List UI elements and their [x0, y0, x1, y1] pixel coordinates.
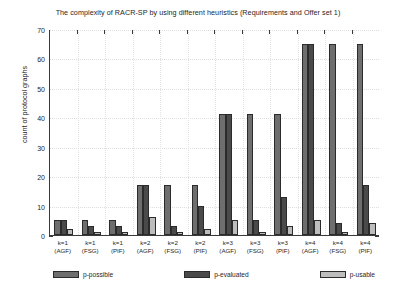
x-label-heuristic: (FSG): [159, 247, 187, 255]
y-tick-label: 70: [15, 27, 45, 34]
x-tick-label: k=3(PIF): [269, 239, 297, 255]
bar-p-evaluated: [308, 44, 314, 235]
y-tick-label: 0: [15, 233, 45, 240]
legend-swatch-p-evaluated: [184, 271, 210, 278]
legend-item-p-possible: p-possible: [53, 271, 113, 278]
x-tick-mark: [159, 30, 160, 34]
x-tick-label: k=4(FSG): [324, 239, 352, 255]
x-tick-mark: [187, 30, 188, 34]
x-tick-mark: [352, 30, 353, 34]
bar-p-usable: [177, 232, 183, 235]
gridline-vertical: [188, 30, 189, 235]
y-tick-label: 40: [15, 115, 45, 122]
x-tick-label: k=1(PIF): [104, 239, 132, 255]
chart-figure: The complexity of RACR-SP by using diffe…: [0, 0, 396, 289]
bar-p-usable: [259, 232, 265, 235]
bar-group: [274, 29, 293, 235]
x-tick-label: k=1(FSG): [77, 239, 105, 255]
y-tick-label: 50: [15, 85, 45, 92]
x-axis-labels: k=1(AGF)k=1(FSG)k=1(PIF)k=2(AGF)k=2(FSG)…: [49, 239, 379, 263]
y-tick-label: 10: [15, 203, 45, 210]
legend-label-p-usable: p-usable: [350, 271, 375, 278]
plot-area: [49, 30, 379, 236]
bar-group: [247, 29, 266, 235]
gridline-vertical: [160, 30, 161, 235]
x-tick-label: k=3(FSG): [242, 239, 270, 255]
x-tick-mark: [104, 30, 105, 34]
x-tick-label: k=2(PIF): [187, 239, 215, 255]
x-tick-mark: [324, 30, 325, 34]
gridline-vertical: [105, 30, 106, 235]
bar-p-usable: [67, 229, 73, 235]
x-tick-label: k=1(AGF): [49, 239, 77, 255]
x-tick-label: k=2(AGF): [132, 239, 160, 255]
bar-p-usable: [204, 229, 210, 235]
gridline-vertical: [325, 30, 326, 235]
y-axis-label: count of protocol graphs: [20, 25, 29, 185]
chart-legend: p-possible p-evaluated p-usable: [49, 266, 379, 282]
x-label-heuristic: (AGF): [214, 247, 242, 255]
bar-group: [82, 29, 101, 235]
bar-p-usable: [94, 232, 100, 235]
y-tick-mark: [49, 236, 53, 237]
x-label-k: k=4: [324, 239, 352, 247]
x-tick-mark: [269, 30, 270, 34]
bar-p-possible: [247, 114, 253, 235]
legend-item-p-evaluated: p-evaluated: [184, 271, 248, 278]
bar-p-usable: [314, 220, 320, 235]
x-label-heuristic: (PIF): [187, 247, 215, 255]
x-label-heuristic: (FSG): [242, 247, 270, 255]
bar-p-usable: [342, 232, 348, 235]
gridline-vertical: [353, 30, 354, 235]
x-tick-mark: [77, 30, 78, 34]
x-label-heuristic: (AGF): [297, 247, 325, 255]
gridline-vertical: [298, 30, 299, 235]
x-label-heuristic: (FSG): [77, 247, 105, 255]
y-tick-label: 60: [15, 56, 45, 63]
legend-swatch-p-usable: [320, 271, 346, 278]
y-tick-label: 30: [15, 144, 45, 151]
x-tick-mark: [214, 30, 215, 34]
legend-item-p-usable: p-usable: [320, 271, 375, 278]
x-tick-label: k=4(AGF): [297, 239, 325, 255]
y-tick-label: 20: [15, 174, 45, 181]
x-label-heuristic: (AGF): [132, 247, 160, 255]
bar-p-usable: [287, 226, 293, 235]
x-label-k: k=1: [104, 239, 132, 247]
x-label-heuristic: (PIF): [104, 247, 132, 255]
x-tick-label: k=2(FSG): [159, 239, 187, 255]
chart-title: The complexity of RACR-SP by using diffe…: [0, 8, 396, 17]
x-label-k: k=1: [49, 239, 77, 247]
bar-group: [109, 29, 128, 235]
bar-p-possible: [329, 44, 335, 235]
bar-group: [137, 29, 156, 235]
bar-p-evaluated: [226, 114, 232, 235]
x-label-k: k=2: [159, 239, 187, 247]
legend-label-p-evaluated: p-evaluated: [214, 271, 248, 278]
x-label-k: k=3: [242, 239, 270, 247]
gridline-vertical: [133, 30, 134, 235]
x-label-k: k=4: [297, 239, 325, 247]
x-tick-label: k=4(PIF): [352, 239, 380, 255]
bar-p-usable: [369, 223, 375, 235]
bar-group: [357, 29, 376, 235]
gridline-vertical: [243, 30, 244, 235]
bar-p-usable: [232, 220, 238, 235]
gridline-vertical: [215, 30, 216, 235]
legend-swatch-p-possible: [53, 271, 79, 278]
x-label-heuristic: (PIF): [269, 247, 297, 255]
x-label-heuristic: (AGF): [49, 247, 77, 255]
x-tick-mark: [132, 30, 133, 34]
x-label-k: k=2: [187, 239, 215, 247]
bar-group: [219, 29, 238, 235]
x-tick-label: k=3(AGF): [214, 239, 242, 255]
x-label-heuristic: (PIF): [352, 247, 380, 255]
x-label-k: k=3: [214, 239, 242, 247]
bar-p-usable: [122, 232, 128, 235]
x-label-k: k=1: [77, 239, 105, 247]
x-tick-mark: [242, 30, 243, 34]
bar-p-usable: [149, 217, 155, 235]
bar-group: [302, 29, 321, 235]
gridline-vertical: [270, 30, 271, 235]
x-label-k: k=2: [132, 239, 160, 247]
